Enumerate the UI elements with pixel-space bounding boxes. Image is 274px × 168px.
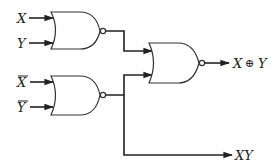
wire-g2-to-xy (124, 95, 232, 155)
nor-gate-2 (51, 76, 106, 115)
inversion-bubble (100, 92, 105, 97)
output-label-xor-operator: ⊕ (245, 57, 254, 70)
output-label-xy: XY (234, 148, 254, 163)
input-label-ybar: Y (17, 100, 27, 115)
inversion-bubble (199, 60, 204, 65)
output-label-xor-y: Y (258, 56, 268, 71)
logic-circuit-diagram: X Y X Y X ⊕ Y XY (0, 0, 274, 168)
nor-gate-3 (149, 43, 205, 83)
wire-g1-to-g3 (106, 31, 153, 51)
nor-gate-1 (51, 12, 106, 49)
inversion-bubble (100, 28, 105, 33)
wire-g2-to-g3 (106, 75, 153, 95)
input-label-y: Y (17, 36, 27, 51)
input-label-xbar: X (16, 75, 27, 90)
input-label-x: X (16, 11, 27, 26)
output-label-xor-x: X (232, 56, 243, 71)
